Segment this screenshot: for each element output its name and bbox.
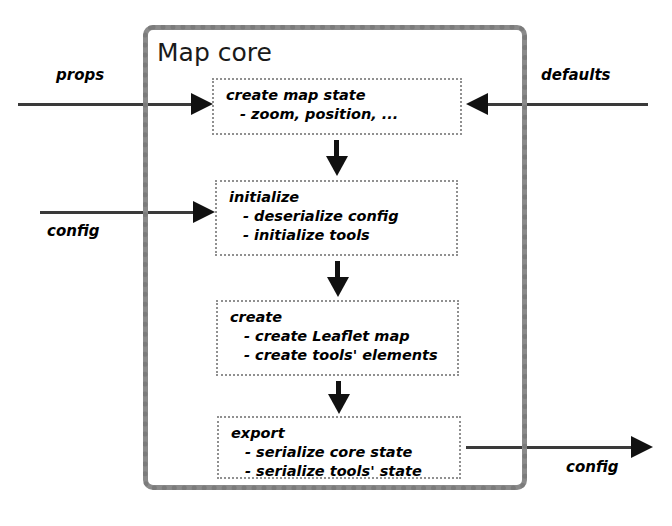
edge-label-props: props [56, 66, 104, 84]
step-title: export [231, 424, 459, 443]
step-title: create map state [226, 86, 460, 105]
connector-3-4-head-icon [328, 394, 350, 414]
step-box-export[interactable]: export - serialize core state - serializ… [217, 416, 461, 479]
edge-label-config-in: config [47, 222, 99, 240]
step-item: - initialize tools [229, 226, 456, 245]
config-out-arrow-head-icon [631, 436, 653, 458]
diagram-canvas: props defaults config config Map core cr… [0, 0, 672, 526]
map-core-title: Map core [157, 38, 272, 67]
step-title: create [230, 308, 457, 327]
connector-2-3-head-icon [327, 277, 349, 297]
defaults-arrow-head-icon [466, 93, 488, 115]
props-arrow-head-icon [191, 93, 213, 115]
step-box-create[interactable]: create - create Leaflet map - create too… [216, 300, 459, 376]
step-item: - zoom, position, ... [226, 105, 460, 124]
step-item: - create tools' elements [230, 346, 457, 365]
connector-1-2-head-icon [326, 156, 348, 176]
step-item: - deserialize config [229, 207, 456, 226]
step-box-create-map-state[interactable]: create map state - zoom, position, ... [212, 78, 462, 135]
step-item: - serialize core state [231, 443, 459, 462]
step-item: - create Leaflet map [230, 327, 457, 346]
config-in-arrow-head-icon [193, 201, 215, 223]
edge-label-config-out: config [566, 458, 618, 476]
step-item: - serialize tools' state [231, 462, 459, 481]
step-box-initialize[interactable]: initialize - deserialize config - initia… [215, 180, 458, 256]
step-title: initialize [229, 188, 456, 207]
edge-label-defaults: defaults [541, 66, 610, 84]
